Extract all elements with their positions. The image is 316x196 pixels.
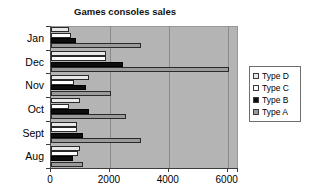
chart-container: Games consoles sales 0200040006000 JanDe… [0, 0, 316, 196]
bar-oct-type-c [51, 104, 69, 109]
x-tick-label: 0 [47, 174, 53, 185]
y-tick-label-sept: Sept [22, 127, 44, 139]
x-tick-label: 2000 [98, 174, 120, 185]
bar-group [51, 26, 238, 50]
legend-item-type-a[interactable]: Type A [253, 106, 297, 118]
bar-nov-type-d [51, 75, 89, 80]
bar-dec-type-d [51, 51, 106, 56]
legend-label: Type C [262, 83, 289, 93]
bar-sept-type-c [51, 127, 77, 132]
bar-jan-type-b [51, 38, 76, 43]
y-tick-label-aug: Aug [25, 150, 44, 162]
legend-label: Type D [262, 71, 289, 81]
y-tick [46, 73, 50, 74]
x-tick-label: 6000 [216, 174, 238, 185]
legend-item-type-b[interactable]: Type B [253, 94, 297, 106]
legend: Type DType CType BType A [249, 66, 301, 122]
bar-dec-type-a [51, 67, 229, 72]
y-tick [46, 144, 50, 145]
bar-sept-type-d [51, 122, 77, 127]
plot-area [50, 26, 238, 168]
y-tick [46, 121, 50, 122]
y-tick-label-jan: Jan [27, 32, 44, 44]
bar-aug-type-b [51, 156, 73, 161]
x-tick [227, 168, 228, 172]
bar-nov-type-c [51, 80, 74, 85]
bar-sept-type-a [51, 138, 141, 143]
legend-label: Type B [262, 95, 288, 105]
bar-jan-type-a [51, 43, 141, 48]
y-tick-label-nov: Nov [25, 79, 44, 91]
x-tick [109, 168, 110, 172]
chart-title: Games consoles sales [0, 6, 250, 17]
bar-aug-type-c [51, 151, 78, 156]
bar-oct-type-d [51, 98, 80, 103]
bar-dec-type-c [51, 56, 106, 61]
bar-group [51, 73, 238, 97]
x-tick-end [237, 168, 238, 172]
bar-sept-type-b [51, 133, 83, 138]
legend-swatch-icon [253, 97, 259, 103]
bar-group [51, 97, 238, 121]
legend-swatch-icon [253, 85, 259, 91]
legend-swatch-icon [253, 73, 259, 79]
x-tick-label: 4000 [157, 174, 179, 185]
y-tick [46, 97, 50, 98]
bar-group [51, 144, 238, 168]
x-tick [168, 168, 169, 172]
y-tick-label-oct: Oct [28, 103, 44, 115]
y-tick [46, 26, 50, 27]
bar-jan-type-c [51, 33, 71, 38]
bar-group [51, 50, 238, 74]
y-tick-label-dec: Dec [25, 56, 44, 68]
bar-aug-type-a [51, 162, 83, 167]
bar-nov-type-b [51, 85, 86, 90]
legend-label: Type A [262, 107, 288, 117]
y-tick [46, 50, 50, 51]
bar-oct-type-a [51, 114, 126, 119]
bar-group [51, 121, 238, 145]
legend-item-type-c[interactable]: Type C [253, 82, 297, 94]
bar-aug-type-d [51, 146, 80, 151]
legend-item-type-d[interactable]: Type D [253, 70, 297, 82]
legend-swatch-icon [253, 109, 259, 115]
bar-oct-type-b [51, 109, 89, 114]
bar-nov-type-a [51, 91, 111, 96]
bar-dec-type-b [51, 62, 123, 67]
y-tick [46, 168, 50, 169]
bar-jan-type-d [51, 27, 69, 32]
x-tick [50, 168, 51, 172]
x-axis-line [50, 168, 238, 169]
